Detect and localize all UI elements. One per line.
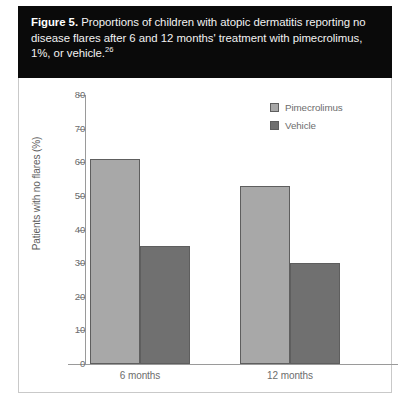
y-axis-title: Patients with no flares (%) xyxy=(31,94,42,294)
x-axis-line xyxy=(68,364,398,365)
y-axis-tick-label: 20 xyxy=(51,291,85,302)
figure-caption-reference: 26 xyxy=(105,45,113,54)
y-axis-tick-label: 60 xyxy=(51,156,85,167)
legend-swatch-icon xyxy=(270,103,279,112)
figure-caption-body: Proportions of children with atopic derm… xyxy=(31,16,366,59)
bar-pimecrolimus-6-months xyxy=(90,159,140,364)
y-axis-tick-label: 80 xyxy=(51,89,85,100)
figure-caption-text: Figure 5. Proportions of children with a… xyxy=(31,15,379,62)
x-axis-group-label: 6 months xyxy=(90,370,190,381)
y-axis-tick-label: 10 xyxy=(51,324,85,335)
bar-vehicle-12-months xyxy=(290,263,340,364)
x-axis-group-label: 12 months xyxy=(240,370,340,381)
figure-caption-band: Figure 5. Proportions of children with a… xyxy=(18,6,392,78)
y-axis-tick-label: 40 xyxy=(51,224,85,235)
y-axis-tick-label: 50 xyxy=(51,190,85,201)
legend-item: Pimecrolimus xyxy=(270,100,343,115)
y-axis-tick-label: 0 xyxy=(51,358,85,369)
y-axis-line xyxy=(85,95,86,365)
figure-caption-label: Figure 5. xyxy=(31,16,78,28)
legend-item-label: Pimecrolimus xyxy=(285,102,343,113)
y-axis-tick-label: 70 xyxy=(51,123,85,134)
legend-item: Vehicle xyxy=(270,118,343,133)
bar-vehicle-6-months xyxy=(140,246,190,364)
y-axis-tick-label: 30 xyxy=(51,257,85,268)
figure-container: Figure 5. Proportions of children with a… xyxy=(0,0,405,414)
chart-legend: PimecrolimusVehicle xyxy=(270,100,343,136)
legend-swatch-icon xyxy=(270,121,279,130)
bar-pimecrolimus-12-months xyxy=(240,186,290,364)
bar-chart: Patients with no flares (%) 010203040506… xyxy=(18,78,392,393)
legend-item-label: Vehicle xyxy=(285,120,316,131)
